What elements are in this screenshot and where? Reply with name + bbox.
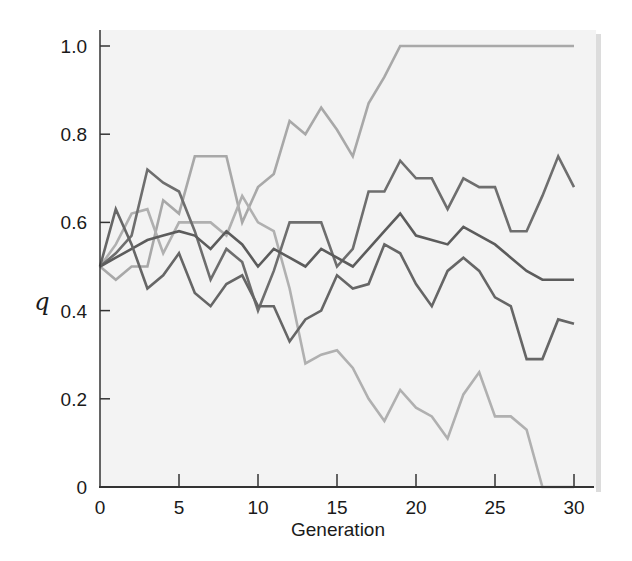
x-axis-title: Generation [291,519,385,540]
y-tick-label: 0.2 [61,389,87,410]
plot-shadow-edge [596,34,601,492]
x-tick-label: 0 [95,497,106,518]
x-tick-label: 25 [484,497,505,518]
x-tick-label: 20 [405,497,426,518]
x-tick-label: 5 [174,497,185,518]
x-tick-label: 30 [563,497,584,518]
y-tick-label: 0 [76,477,87,498]
y-tick-label: 0.8 [61,124,87,145]
x-tick-label: 15 [326,497,347,518]
y-tick-label: 1.0 [61,36,87,57]
y-tick-label: 0.4 [61,301,88,322]
line-chart: 00.20.40.60.81.0 051015202530 Generation… [0,0,632,561]
y-axis-title: q [34,288,49,316]
y-tick-label: 0.6 [61,212,87,233]
x-tick-label: 10 [247,497,268,518]
